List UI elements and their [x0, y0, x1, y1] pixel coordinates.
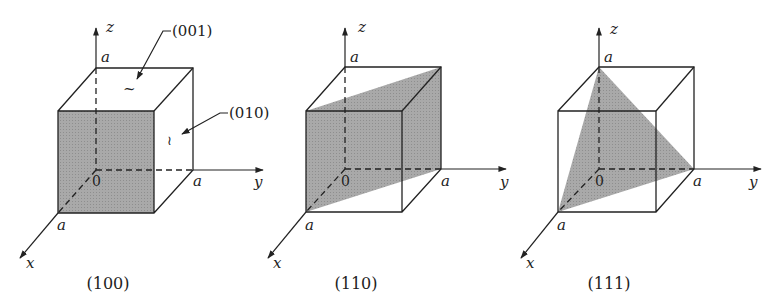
annotation-010-label: (010): [229, 104, 269, 122]
y-intercept-label: a: [441, 172, 450, 190]
x-axis-label: x: [273, 254, 282, 272]
annotation-001-label: (001): [172, 22, 212, 40]
z-axis-label: z: [357, 18, 366, 36]
x-axis-label: x: [26, 254, 35, 272]
caption-110: (110): [334, 274, 377, 293]
x-axis-arrow: [521, 212, 558, 258]
x-axis-arrow: [20, 213, 58, 258]
z-axis-label: z: [105, 18, 114, 36]
x-axis-label: x: [526, 254, 535, 272]
origin-label: 0: [341, 173, 350, 189]
panel-110: z y x 0 a a a (110): [268, 18, 509, 293]
x-axis-arrow: [268, 212, 306, 258]
panel-111: z y x 0 a a a (111): [521, 20, 761, 293]
z-intercept-label: a: [604, 48, 613, 66]
leader-001: [137, 31, 171, 79]
leader-010: [182, 113, 228, 134]
y-axis-label: y: [748, 173, 758, 191]
z-axis-label: z: [609, 20, 618, 38]
annotation-010-marker: ≀: [167, 133, 172, 148]
x-intercept-label: a: [57, 216, 66, 234]
y-axis-label: y: [253, 173, 263, 191]
cube-edge: [656, 67, 694, 111]
cube-edge: [154, 68, 193, 111]
x-intercept-label: a: [305, 216, 314, 234]
z-intercept-label: a: [350, 48, 359, 66]
y-intercept-label: a: [693, 172, 702, 190]
caption-100: (100): [86, 274, 129, 293]
origin-label: 0: [595, 173, 604, 189]
y-axis-label: y: [499, 173, 509, 191]
plane-100-shading: [58, 111, 154, 213]
miller-indices-figure: z y x 0 a a a (001) ~ (010) ≀ (100) z y …: [0, 0, 773, 306]
x-intercept-label: a: [557, 216, 566, 234]
y-intercept-label: a: [193, 172, 202, 190]
caption-111: (111): [587, 274, 630, 293]
origin-label: 0: [92, 173, 101, 189]
annotation-001-marker: ~: [123, 80, 136, 98]
panel-100: z y x 0 a a a (001) ~ (010) ≀ (100): [20, 18, 269, 293]
z-intercept-label: a: [101, 48, 110, 66]
